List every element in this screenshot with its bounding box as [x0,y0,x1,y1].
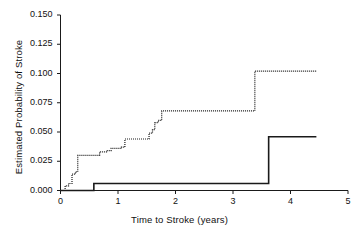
x-tick-label: 2 [166,196,186,206]
x-axis-title: Time to Stroke (years) [0,214,359,225]
series-solid-lower-curve [61,137,317,191]
y-tick-label: 0.050 [17,126,53,136]
y-axis-ticks [57,15,61,191]
data-series-group [61,71,317,190]
x-tick-label: 4 [281,196,301,206]
series-dotted-upper-curve [61,71,317,190]
x-tick-label: 5 [338,196,358,206]
y-tick-label: 0.100 [17,68,53,78]
x-axis-ticks [61,191,349,195]
x-tick-label: 3 [223,196,243,206]
y-tick-label: 0.150 [17,9,53,19]
x-tick-label: 0 [51,196,71,206]
y-axis-title: Estimated Probability of Stroke [13,40,24,175]
y-tick-label: 0.125 [17,38,53,48]
y-tick-label: 0.025 [17,155,53,165]
stroke-probability-chart: Estimated Probability of Stroke Time to … [0,0,359,237]
x-tick-label: 1 [108,196,128,206]
y-tick-label: 0.000 [17,185,53,195]
y-tick-label: 0.075 [17,97,53,107]
